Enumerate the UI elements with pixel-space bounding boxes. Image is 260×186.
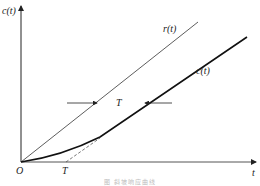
- figure-caption: 图 斜坡响应曲线: [0, 177, 260, 186]
- ramp-response-diagram: [0, 0, 260, 186]
- origin-label: O: [16, 166, 23, 176]
- ramp-input-line: [21, 22, 198, 162]
- ramp-input-label: r(t): [163, 24, 176, 34]
- lag-label: T: [116, 98, 122, 108]
- response-curve: [21, 37, 247, 162]
- y-axis-label: c(t): [2, 6, 16, 16]
- delay-tick-label: T: [62, 166, 68, 176]
- response-label: c(t): [196, 66, 210, 76]
